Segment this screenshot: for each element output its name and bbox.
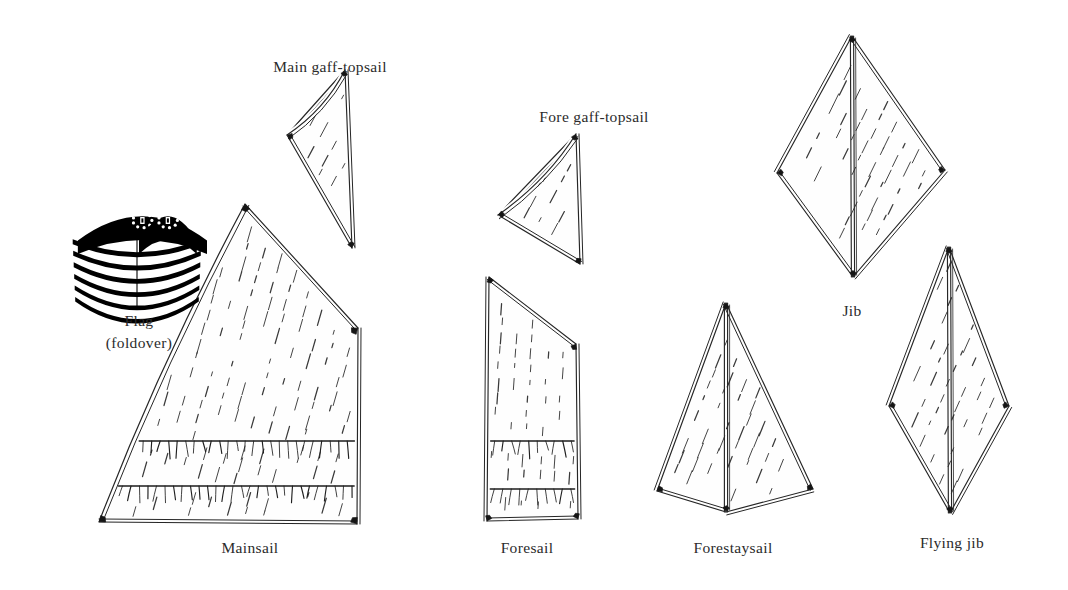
label-flag-foldover: Flag (foldover) <box>106 310 172 355</box>
label-jib: Jib <box>842 302 861 320</box>
label-flying-jib: Flying jib <box>920 534 984 552</box>
label-fore-gaff-topsail: Fore gaff-topsail <box>539 108 648 126</box>
sail-plan-drawing <box>0 0 1068 590</box>
label-forestaysail: Forestaysail <box>693 539 772 557</box>
illustration-canvas: Main gaff-topsail Fore gaff-topsail Flag… <box>0 0 1068 590</box>
label-main-gaff-topsail: Main gaff-topsail <box>273 58 387 76</box>
label-flag-line2: (foldover) <box>106 334 172 351</box>
label-foresail: Foresail <box>501 539 554 557</box>
label-flag-line1: Flag <box>125 312 154 329</box>
label-mainsail: Mainsail <box>221 539 278 557</box>
